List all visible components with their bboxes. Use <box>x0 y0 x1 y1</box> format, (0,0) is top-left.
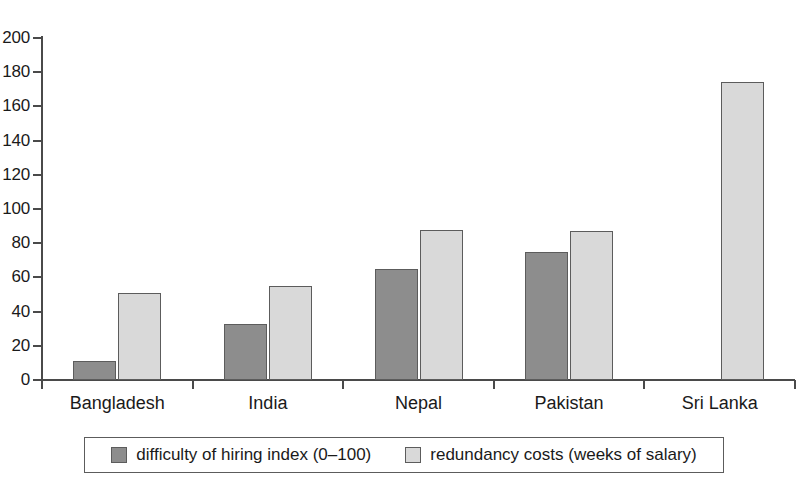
x-axis-tick <box>192 380 194 389</box>
bar-india-series-1 <box>224 324 267 380</box>
bar-chart: 020406080100120140160180200 BangladeshIn… <box>0 0 804 481</box>
y-axis-tick <box>33 208 42 210</box>
x-axis-tick <box>41 380 43 389</box>
x-axis-label-pakistan: Pakistan <box>494 392 645 414</box>
y-axis-tick-label: 160 <box>0 97 30 114</box>
chart-legend: difficulty of hiring index (0–100) redun… <box>84 437 724 473</box>
y-axis-tick <box>33 242 42 244</box>
x-axis-tick <box>643 380 645 389</box>
plot-area <box>42 38 795 380</box>
bar-sri-lanka-series-2 <box>721 82 764 380</box>
y-axis-tick-label: 180 <box>0 63 30 80</box>
y-axis-tick-label: 40 <box>0 303 30 320</box>
y-axis-tick <box>33 345 42 347</box>
y-axis-tick <box>33 140 42 142</box>
y-axis-tick <box>33 174 42 176</box>
y-axis-tick-label: 80 <box>0 234 30 251</box>
legend-label-difficulty-of-hiring: difficulty of hiring index (0–100) <box>136 445 371 465</box>
y-axis-tick <box>33 311 42 313</box>
y-axis-tick-label: 200 <box>0 29 30 46</box>
x-axis-label-nepal: Nepal <box>343 392 494 414</box>
bar-pakistan-series-1 <box>525 252 568 380</box>
bar-nepal-series-2 <box>420 230 463 380</box>
y-axis-tick-label: 120 <box>0 166 30 183</box>
x-axis-label-sri-lanka: Sri Lanka <box>644 392 795 414</box>
y-axis-tick-label: 0 <box>0 371 30 388</box>
y-axis-tick-label: 60 <box>0 268 30 285</box>
y-axis-tick-label: 100 <box>0 200 30 217</box>
legend-label-redundancy-costs: redundancy costs (weeks of salary) <box>430 445 696 465</box>
x-axis-tick <box>342 380 344 389</box>
y-axis-tick-label: 140 <box>0 132 30 149</box>
y-axis-tick <box>33 276 42 278</box>
legend-entry-difficulty-of-hiring: difficulty of hiring index (0–100) <box>111 445 371 465</box>
x-axis-tick <box>493 380 495 389</box>
y-axis-tick <box>33 71 42 73</box>
x-axis-label-bangladesh: Bangladesh <box>42 392 193 414</box>
legend-entry-redundancy-costs: redundancy costs (weeks of salary) <box>405 445 696 465</box>
y-axis-tick-label: 20 <box>0 337 30 354</box>
bar-nepal-series-1 <box>375 269 418 380</box>
x-axis-label-india: India <box>193 392 344 414</box>
bar-bangladesh-series-1 <box>73 361 116 380</box>
bar-pakistan-series-2 <box>570 231 613 380</box>
legend-swatch-icon-light <box>405 447 421 463</box>
x-axis-tick <box>794 380 796 389</box>
bar-bangladesh-series-2 <box>118 293 161 380</box>
y-axis-tick <box>33 37 42 39</box>
y-axis-tick <box>33 105 42 107</box>
bar-india-series-2 <box>269 286 312 380</box>
legend-swatch-icon-dark <box>111 447 127 463</box>
